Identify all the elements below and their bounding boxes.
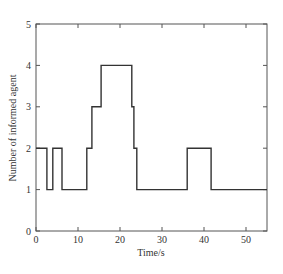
y-tick-label: 0 [26, 226, 31, 237]
x-tick-label: 0 [34, 234, 39, 245]
series-line-informed-agents [36, 65, 267, 189]
y-axis-ticks: 012345 [26, 19, 267, 237]
y-tick-label: 4 [26, 60, 31, 71]
y-tick-label: 5 [26, 19, 31, 30]
y-axis-label: Number of informed agent [7, 74, 18, 181]
x-tick-label: 40 [199, 234, 209, 245]
x-axis-label: Time/s [137, 247, 165, 258]
x-tick-label: 30 [157, 234, 167, 245]
x-axis-ticks: 01020304050 [34, 24, 252, 245]
chart: 01020304050 012345 Time/s Number of info… [0, 0, 283, 274]
y-tick-label: 3 [26, 101, 31, 112]
x-tick-label: 50 [241, 234, 251, 245]
y-tick-label: 2 [26, 143, 31, 154]
x-tick-label: 10 [73, 234, 83, 245]
x-tick-label: 20 [115, 234, 125, 245]
y-tick-label: 1 [26, 184, 31, 195]
plot-frame [36, 24, 267, 231]
